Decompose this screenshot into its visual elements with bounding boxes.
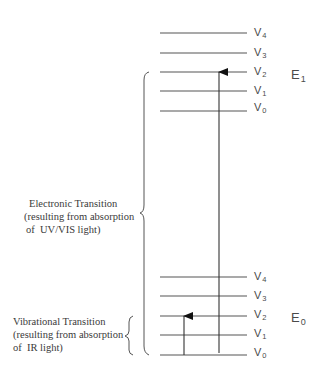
energy-level-diagram: V4 V3 V2 V1 V0 E1 V4 V3 V2 V1 V0 E0 Elec… bbox=[0, 0, 330, 375]
level-label-e1-v4: V4 bbox=[254, 26, 267, 40]
lower-level-labels: V4 V3 V2 V1 V0 E0 bbox=[254, 270, 306, 360]
electronic-transition-label: Electronic Transition (resulting from ab… bbox=[24, 198, 137, 236]
level-label-e0-v1: V1 bbox=[254, 327, 267, 341]
level-label-e0-v0: V0 bbox=[254, 346, 267, 360]
level-label-e0-v4: V4 bbox=[254, 270, 267, 284]
level-label-e1-v0: V0 bbox=[254, 101, 267, 115]
state-label-e0: E0 bbox=[291, 310, 306, 327]
vibrational-transition-brace bbox=[125, 316, 133, 355]
lower-state-levels bbox=[160, 277, 247, 355]
state-label-e1: E1 bbox=[291, 67, 306, 84]
level-label-e0-v2: V2 bbox=[254, 308, 267, 322]
upper-state-levels bbox=[160, 33, 247, 111]
level-label-e1-v2: V2 bbox=[254, 65, 267, 79]
level-label-e1-v3: V3 bbox=[254, 46, 267, 60]
upper-level-labels: V4 V3 V2 V1 V0 E1 bbox=[254, 26, 306, 115]
level-label-e1-v1: V1 bbox=[254, 84, 267, 98]
vibrational-transition-label: Vibrational Transition (resulting from a… bbox=[13, 316, 126, 354]
level-label-e0-v3: V3 bbox=[254, 289, 267, 303]
electronic-transition-brace bbox=[140, 72, 149, 355]
